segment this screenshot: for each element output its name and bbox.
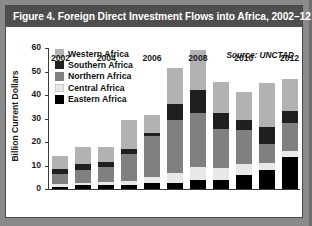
chart-area: Billion Current Dollars Source: UNCTAD W… <box>6 27 302 217</box>
figure-frame: Figure 4. Foreign Direct Investment Flow… <box>0 0 309 226</box>
y-axis-tick-label: 0 <box>36 183 41 193</box>
y-axis-tick-label: 10 <box>31 160 41 170</box>
bar-segment <box>167 120 183 173</box>
bar-segment <box>259 170 275 189</box>
bar-segment <box>282 79 298 112</box>
x-axis-tick-label: 2010 <box>234 53 253 63</box>
x-axis-tick-label: 2012 <box>280 53 299 63</box>
bar-segment <box>167 183 183 189</box>
y-axis-tick-label: 20 <box>31 136 41 146</box>
y-axis-title-text: Billion Current Dollars <box>10 70 20 161</box>
bar-segment <box>52 174 68 185</box>
bar-segment <box>236 175 252 189</box>
bar-segment <box>75 185 91 189</box>
bar-segment <box>190 90 206 112</box>
bar-segment <box>236 164 252 175</box>
bar-stack <box>75 147 91 189</box>
bar-segment <box>236 130 252 164</box>
bar-segment <box>282 123 298 151</box>
bar-segment <box>121 185 137 189</box>
bar-segment <box>121 154 137 181</box>
bar-stack <box>236 92 252 189</box>
bar-stack <box>259 83 275 189</box>
bar-segment <box>144 136 160 177</box>
bar-segment <box>213 168 229 180</box>
bar-segment <box>144 115 160 133</box>
figure-title-bar: Figure 4. Foreign Direct Investment Flow… <box>6 6 302 27</box>
bar-segment <box>98 185 114 189</box>
bar-stack <box>190 50 206 189</box>
bar-segment <box>190 113 206 167</box>
x-axis-tick-label: 2002 <box>51 53 70 63</box>
bar-segment <box>121 120 137 149</box>
x-axis-tick-label: 2004 <box>97 53 116 63</box>
bar-segment <box>167 104 183 119</box>
bar-segment <box>98 147 114 162</box>
bar-stack <box>144 115 160 189</box>
bar-segment <box>259 83 275 126</box>
x-axis-tick-label: 2006 <box>143 53 162 63</box>
x-axis-tick-label: 2008 <box>188 53 207 63</box>
bar-stack <box>282 79 298 189</box>
bar-segment <box>213 82 229 113</box>
bar-segment <box>167 68 183 104</box>
bar-segment <box>190 180 206 189</box>
bar-segment <box>213 180 229 189</box>
bar-segment <box>190 167 206 180</box>
bar-segment <box>144 183 160 189</box>
bar-segment <box>236 92 252 120</box>
bar-segment <box>259 163 275 170</box>
bar-stack <box>98 147 114 189</box>
bar-segment <box>282 157 298 189</box>
bar-series-container <box>49 49 300 189</box>
bar-segment <box>259 144 275 163</box>
bar-stack <box>121 120 137 189</box>
bar-segment <box>167 173 183 184</box>
bar-stack <box>213 82 229 189</box>
bar-segment <box>282 111 298 123</box>
page-title: Figure 4. Foreign Direct Investment Flow… <box>13 11 309 22</box>
figure-card: Figure 4. Foreign Direct Investment Flow… <box>6 6 302 217</box>
bar-segment <box>259 127 275 145</box>
bar-stack <box>167 68 183 189</box>
bar-stack <box>52 156 68 189</box>
y-axis-tick-mark <box>45 189 49 190</box>
bar-segment <box>52 187 68 189</box>
y-axis-tick-label: 40 <box>31 89 41 99</box>
plot-box: 0102030405060 200220042006200820102012 <box>48 49 300 190</box>
bar-segment <box>75 147 91 165</box>
bar-segment <box>52 156 68 169</box>
y-axis-title: Billion Current Dollars <box>8 51 22 181</box>
y-axis-tick-label: 50 <box>31 66 41 76</box>
y-axis-tick-label: 60 <box>31 42 41 52</box>
bar-segment <box>98 167 114 182</box>
bar-segment <box>213 129 229 168</box>
y-axis-tick-label: 30 <box>31 113 41 123</box>
bar-segment <box>236 120 252 131</box>
bar-segment <box>75 170 91 183</box>
bar-segment <box>213 113 229 129</box>
